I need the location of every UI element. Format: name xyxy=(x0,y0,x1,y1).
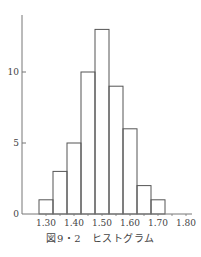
x-tick-label: 1.60 xyxy=(120,218,140,228)
histogram-bar xyxy=(81,72,95,214)
x-tick-label: 1.30 xyxy=(36,218,56,228)
histogram-bar xyxy=(53,171,67,214)
histogram-bar xyxy=(67,143,81,214)
histogram-bar xyxy=(137,186,151,214)
y-tick-label: 0 xyxy=(13,209,19,219)
y-tick-label: 10 xyxy=(8,67,20,77)
histogram-bar xyxy=(123,129,137,214)
histogram-bar xyxy=(95,29,109,214)
y-tick-label: 5 xyxy=(13,138,19,148)
histogram-bar xyxy=(39,200,53,214)
x-tick-label: 1.80 xyxy=(176,218,196,228)
x-tick-label: 1.40 xyxy=(64,218,84,228)
x-axis-ticks: 1.301.401.501.601.701.80 xyxy=(36,214,196,228)
x-tick-label: 1.70 xyxy=(148,218,168,228)
histogram-chart: 0510 1.301.401.501.601.701.80 xyxy=(0,0,201,230)
histogram-bar xyxy=(151,200,165,214)
y-axis-ticks: 0510 xyxy=(8,67,26,219)
x-tick-label: 1.50 xyxy=(92,218,112,228)
figure-caption: 図9・2 ヒストグラム xyxy=(0,230,201,245)
histogram-bar xyxy=(109,86,123,214)
axes xyxy=(22,15,192,214)
histogram-bars xyxy=(39,29,165,214)
